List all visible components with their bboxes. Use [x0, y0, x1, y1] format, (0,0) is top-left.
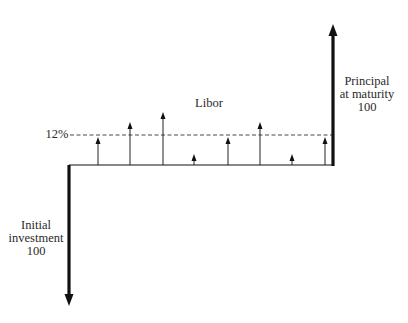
coupon-arrow [192, 154, 197, 165]
principal-label: Principal at maturity 100 [334, 75, 400, 114]
coupon-arrow [258, 122, 263, 165]
coupon-arrow [290, 154, 295, 165]
cash-flow-diagram [0, 0, 408, 323]
libor-label: Libor [188, 97, 230, 110]
coupon-arrow [161, 112, 166, 165]
coupon-arrow [226, 137, 231, 165]
initial-investment-label: Initial investment 100 [4, 219, 68, 258]
coupon-arrow [128, 122, 133, 165]
coupon-arrow [96, 137, 101, 165]
principal-value: 100 [334, 101, 400, 114]
rate-level-label: 12% [44, 128, 70, 141]
coupon-arrow [323, 137, 328, 165]
initial-value: 100 [4, 245, 68, 258]
